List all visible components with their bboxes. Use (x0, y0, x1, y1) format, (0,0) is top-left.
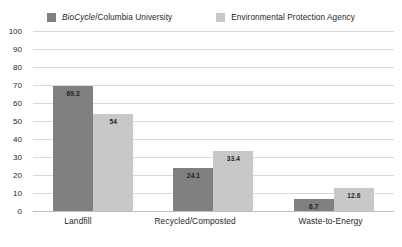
bar-value-label: 69.3 (53, 90, 93, 97)
bar: 33.4 (213, 151, 253, 211)
x-axis-category-labels: LandfillRecycled/CompostedWaste-to-Energ… (33, 216, 394, 236)
legend-label-series-1-italic: BioCycle (62, 13, 95, 22)
legend-label-series-2: Environmental Protection Agency (231, 13, 355, 22)
legend-item-biocycle-columbia-university: BioCycle/Columbia University (47, 13, 172, 22)
grouped-bar-chart: BioCycle/Columbia University Environment… (0, 0, 402, 247)
legend-swatch-series-1 (47, 13, 56, 22)
chart-legend: BioCycle/Columbia University Environment… (0, 8, 402, 26)
bar: 69.3 (53, 86, 93, 211)
bar-group: 69.354 (53, 31, 133, 211)
y-tick-label-70: 70 (0, 81, 22, 90)
legend-label-series-1: BioCycle/Columbia University (62, 13, 172, 22)
bar-value-label: 24.1 (173, 172, 213, 179)
y-tick-label-10: 10 (0, 189, 22, 198)
bar-value-label: 12.6 (334, 192, 374, 199)
category-label: Waste-to-Energy (299, 216, 363, 226)
y-tick-label-90: 90 (0, 45, 22, 54)
bar-group: 6.712.6 (294, 31, 374, 211)
gridline-0 (33, 211, 394, 212)
y-tick-label-30: 30 (0, 153, 22, 162)
bar-value-label: 33.4 (213, 155, 253, 162)
plot-area: 1009080706050403020100 69.35424.133.46.7… (33, 31, 394, 211)
bar-value-label: 6.7 (294, 203, 334, 210)
legend-label-series-1-rest: /Columbia University (95, 13, 172, 22)
y-tick-label-40: 40 (0, 135, 22, 144)
bar: 24.1 (173, 168, 213, 211)
bar-groups: 69.35424.133.46.712.6 (33, 31, 394, 211)
bar: 12.6 (334, 188, 374, 211)
bar-group: 24.133.4 (173, 31, 253, 211)
legend-item-environmental-protection-agency: Environmental Protection Agency (216, 13, 355, 22)
bar-value-label: 54 (93, 118, 133, 125)
y-tick-label-0: 0 (0, 207, 22, 216)
bar: 6.7 (294, 199, 334, 211)
y-tick-label-60: 60 (0, 99, 22, 108)
y-tick-label-50: 50 (0, 117, 22, 126)
y-tick-label-80: 80 (0, 63, 22, 72)
bar: 54 (93, 114, 133, 211)
category-label: Landfill (64, 216, 91, 226)
category-label: Recycled/Composted (154, 216, 235, 226)
legend-swatch-series-2 (216, 13, 225, 22)
y-tick-label-20: 20 (0, 171, 22, 180)
y-tick-label-100: 100 (0, 27, 22, 36)
